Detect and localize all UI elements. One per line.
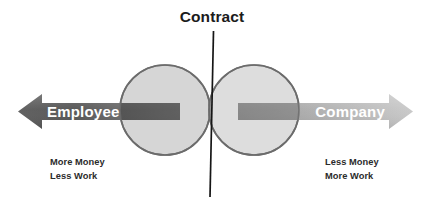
employee-arrow-label: Employee (47, 103, 119, 120)
employee-caption-line-1: More Money (50, 157, 106, 167)
employee-caption-line-2: Less Work (50, 171, 98, 181)
company-arrow-label: Company (315, 103, 385, 120)
contract-balance-diagram: Contract Employee Company More Money Les… (0, 0, 430, 214)
diagram-title: Contract (180, 8, 245, 25)
company-caption-line-2: More Work (325, 171, 374, 181)
company-caption-line-1: Less Money (325, 157, 379, 167)
diagram-canvas: Contract Employee Company More Money Les… (0, 0, 430, 214)
